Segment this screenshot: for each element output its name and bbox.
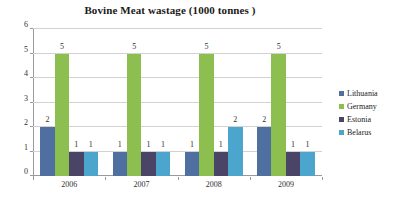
bar-value-label: 1 xyxy=(147,141,151,149)
bar-slot-germany-2006: 5 xyxy=(55,29,69,176)
bar-value-label: 1 xyxy=(161,141,165,149)
x-tick-label-2009: 2009 xyxy=(250,180,322,189)
bar-value-label: 1 xyxy=(118,141,122,149)
legend-swatch-germany xyxy=(339,104,344,109)
y-axis: 0123456 xyxy=(0,29,28,176)
bar-group-2009: 2511 xyxy=(250,29,322,176)
chart-legend: LithuaniaGermanyEstoniaBelarus xyxy=(339,87,403,139)
bar-belarus-2008[interactable]: 2 xyxy=(228,127,242,176)
bar-value-label: 1 xyxy=(74,141,78,149)
bar-groups: 2511151115122511 xyxy=(33,29,322,176)
bar-estonia-2008[interactable]: 1 xyxy=(214,152,228,177)
bar-value-label: 1 xyxy=(291,141,295,149)
y-tick-label-5: 5 xyxy=(0,46,28,54)
y-tick-label-4: 4 xyxy=(0,70,28,78)
bar-slot-estonia-2007: 1 xyxy=(141,29,155,176)
legend-item-belarus[interactable]: Belarus xyxy=(339,126,403,139)
bar-slot-estonia-2009: 1 xyxy=(286,29,300,176)
legend-swatch-estonia xyxy=(339,117,344,122)
plot-area: 2511151115122511 xyxy=(33,29,322,176)
y-tick-label-0: 0 xyxy=(0,168,28,176)
bar-lithuania-2009[interactable]: 2 xyxy=(257,127,271,176)
bar-value-label: 2 xyxy=(45,116,49,124)
legend-item-germany[interactable]: Germany xyxy=(339,100,403,113)
x-axis: 2006200720082009 xyxy=(33,180,322,189)
bar-slot-germany-2009: 5 xyxy=(271,29,285,176)
bar-value-label: 1 xyxy=(219,141,223,149)
bar-value-label: 2 xyxy=(262,116,266,124)
y-tick-label-2: 2 xyxy=(0,119,28,127)
bar-slot-lithuania-2008: 1 xyxy=(185,29,199,176)
bar-estonia-2007[interactable]: 1 xyxy=(141,152,155,177)
bar-group-2006: 2511 xyxy=(33,29,105,176)
x-tick-label-2008: 2008 xyxy=(178,180,250,189)
bar-slot-belarus-2006: 1 xyxy=(84,29,98,176)
y-tick-label-1: 1 xyxy=(0,144,28,152)
bar-belarus-2009[interactable]: 1 xyxy=(300,152,314,177)
bar-estonia-2009[interactable]: 1 xyxy=(286,152,300,177)
bar-slot-estonia-2008: 1 xyxy=(214,29,228,176)
bar-germany-2009[interactable]: 5 xyxy=(271,54,285,177)
chart-title: Bovine Meat wastage (1000 tonnes ) xyxy=(0,4,340,17)
bar-group-2007: 1511 xyxy=(105,29,177,176)
bar-value-label: 1 xyxy=(190,141,194,149)
bar-value-label: 5 xyxy=(60,43,64,51)
y-tick-label-3: 3 xyxy=(0,95,28,103)
legend-item-lithuania[interactable]: Lithuania xyxy=(339,87,403,100)
bar-value-label: 1 xyxy=(89,141,93,149)
bar-lithuania-2007[interactable]: 1 xyxy=(113,152,127,177)
legend-swatch-lithuania xyxy=(339,91,344,96)
bar-germany-2007[interactable]: 5 xyxy=(127,54,141,177)
bar-slot-germany-2008: 5 xyxy=(199,29,213,176)
bar-value-label: 2 xyxy=(233,116,237,124)
bar-slot-lithuania-2007: 1 xyxy=(113,29,127,176)
y-tick-label-6: 6 xyxy=(0,21,28,29)
bar-value-label: 1 xyxy=(306,141,310,149)
bar-slot-lithuania-2009: 2 xyxy=(257,29,271,176)
legend-label-estonia: Estonia xyxy=(347,115,371,124)
bar-slot-belarus-2007: 1 xyxy=(156,29,170,176)
legend-swatch-belarus xyxy=(339,130,344,135)
bar-slot-belarus-2009: 1 xyxy=(300,29,314,176)
legend-label-belarus: Belarus xyxy=(347,128,371,137)
legend-label-germany: Germany xyxy=(347,102,377,111)
x-tick-label-2006: 2006 xyxy=(33,180,105,189)
bar-estonia-2006[interactable]: 1 xyxy=(69,152,83,177)
bar-lithuania-2008[interactable]: 1 xyxy=(185,152,199,177)
legend-item-estonia[interactable]: Estonia xyxy=(339,113,403,126)
bar-belarus-2006[interactable]: 1 xyxy=(84,152,98,177)
x-tick-mark-4 xyxy=(322,177,323,180)
legend-label-lithuania: Lithuania xyxy=(347,89,378,98)
bar-slot-belarus-2008: 2 xyxy=(228,29,242,176)
bar-lithuania-2006[interactable]: 2 xyxy=(40,127,54,176)
bar-value-label: 5 xyxy=(204,43,208,51)
bar-value-label: 5 xyxy=(277,43,281,51)
bar-germany-2006[interactable]: 5 xyxy=(55,54,69,177)
bar-slot-germany-2007: 5 xyxy=(127,29,141,176)
bar-value-label: 5 xyxy=(132,43,136,51)
chart-container: Bovine Meat wastage (1000 tonnes ) 01234… xyxy=(0,0,403,210)
bar-slot-lithuania-2006: 2 xyxy=(40,29,54,176)
bar-slot-estonia-2006: 1 xyxy=(69,29,83,176)
bar-germany-2008[interactable]: 5 xyxy=(199,54,213,177)
x-tick-label-2007: 2007 xyxy=(105,180,177,189)
bar-group-2008: 1512 xyxy=(178,29,250,176)
bar-belarus-2007[interactable]: 1 xyxy=(156,152,170,177)
